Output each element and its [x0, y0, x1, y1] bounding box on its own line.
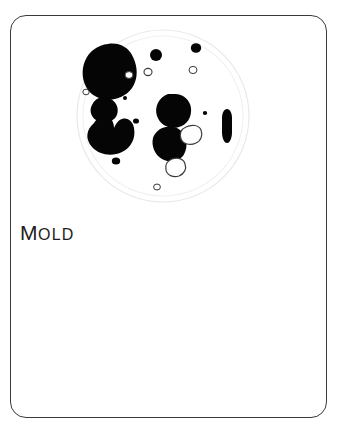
colony-medium-center	[156, 94, 191, 128]
colony-outline-far-left	[83, 89, 89, 95]
colony-elongated-right	[222, 109, 232, 143]
colony-small-top-mid	[150, 49, 162, 61]
flashcard: MOLD	[0, 0, 339, 428]
card-label-initial: M	[20, 221, 38, 244]
colony-outline-upper-left	[125, 72, 133, 79]
card-label-remainder: OLD	[38, 226, 75, 243]
colony-small-lower-left	[112, 157, 120, 164]
colony-tiny-left-upper	[123, 96, 127, 100]
colony-outline-lower-mid	[166, 158, 186, 176]
petri-dish-svg	[74, 28, 252, 204]
petri-dish-illustration	[74, 28, 252, 204]
colony-outline-upper-mid	[144, 68, 152, 75]
colony-outline-mid-right	[180, 125, 202, 144]
colony-small-top-right	[191, 43, 201, 53]
colony-outline-upper-right	[189, 66, 197, 73]
colony-tiny-right-mid	[203, 111, 207, 115]
colony-outline-bottom	[154, 184, 161, 190]
colony-tiny-left-mid	[133, 118, 139, 123]
card-label: MOLD	[20, 222, 75, 243]
